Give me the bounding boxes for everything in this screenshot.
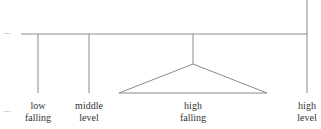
label-high-falling-line2: falling (180, 112, 206, 124)
label-high-falling: high falling (180, 100, 206, 124)
label-high-level-line2: level (297, 112, 316, 124)
label-low-falling-line1: low (25, 100, 51, 112)
ellipsis-top: ... (4, 26, 11, 36)
label-high-falling-line1: high (180, 100, 206, 112)
ellipsis-bottom: ... (4, 104, 11, 114)
label-low-falling-line2: falling (25, 112, 51, 124)
label-high-level: high level (297, 100, 316, 124)
label-low-falling: low falling (25, 100, 51, 124)
label-middle-level: middle level (75, 100, 103, 124)
label-high-level-line1: high (297, 100, 316, 112)
high-falling-triangle (119, 64, 267, 93)
label-middle-level-line1: middle (75, 100, 103, 112)
label-middle-level-line2: level (75, 112, 103, 124)
